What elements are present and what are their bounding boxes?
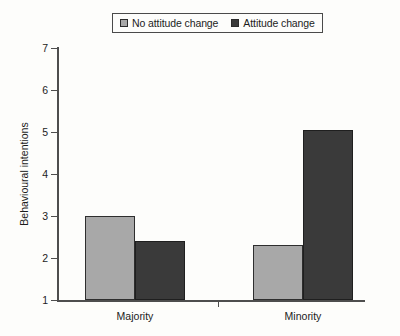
bar-majority-no-attitude-change (85, 216, 135, 300)
x-group-label-minority: Minority (285, 311, 322, 322)
y-tick-2 (51, 258, 57, 259)
y-tick-4 (51, 174, 57, 175)
chart-page: No attitude change Attitude change 7 6 5… (0, 0, 400, 336)
bar-minority-no-attitude-change (253, 245, 303, 300)
y-axis-title: Behavioural intentions (16, 48, 32, 300)
bar-majority-attitude-change (135, 241, 185, 300)
y-tick-3 (51, 216, 57, 217)
plot-area: 7 6 5 4 3 2 1 Behavioural intentions Maj… (0, 0, 400, 336)
x-axis-line (57, 300, 365, 302)
y-axis-line (57, 47, 59, 301)
y-tick-5 (51, 132, 57, 133)
y-tick-6 (51, 90, 57, 91)
y-tick-7 (51, 48, 57, 49)
x-axis-midpoint-tick (218, 301, 219, 307)
bar-minority-attitude-change (303, 130, 353, 300)
x-group-label-majority: Majority (117, 311, 154, 322)
y-tick-1 (51, 300, 57, 301)
